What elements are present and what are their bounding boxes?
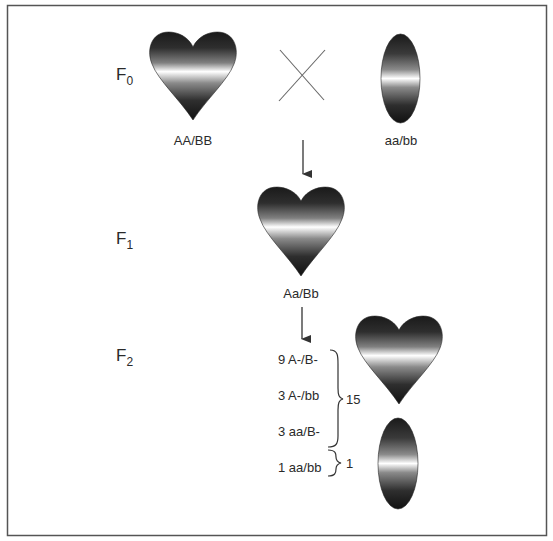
f1-genotype: Aa/Bb xyxy=(283,286,318,301)
f2-oval-shape xyxy=(378,418,418,509)
parent-heart-genotype: AA/BB xyxy=(174,133,212,148)
genetic-cross-diagram: F0 AA/BB aa/bb F1 Aa/Bb F2 9 A-/B- 3 A-/… xyxy=(0,0,553,541)
parent-oval-genotype: aa/bb xyxy=(385,133,418,148)
figure-border xyxy=(8,6,547,536)
f2-class-item: 3 A-/bb xyxy=(278,388,319,403)
group-total-1: 1 xyxy=(346,456,353,471)
f2-class-item: 9 A-/B- xyxy=(278,352,318,367)
f2-class-item: 3 aa/B- xyxy=(278,424,320,439)
group-total-15: 15 xyxy=(346,392,360,407)
parent-oval-shape xyxy=(381,34,420,123)
f2-class-item: 1 aa/bb xyxy=(278,460,321,475)
